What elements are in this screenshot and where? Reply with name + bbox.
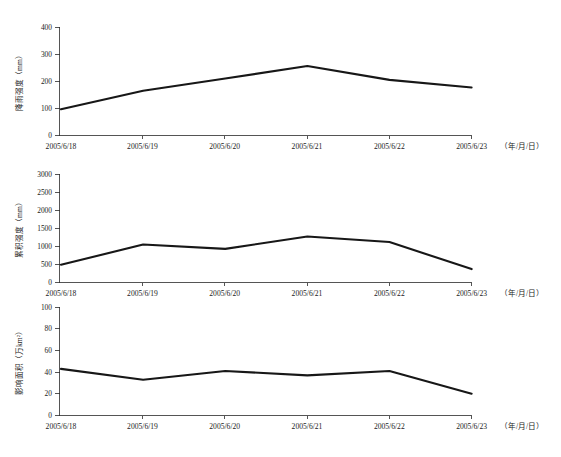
x-tick-label: 2005/6/23 <box>456 422 487 431</box>
x-axis-group-1: 2005/6/18 2005/6/19 2005/6/20 2005/6/21 … <box>46 283 545 298</box>
y-tick-label: 300 <box>41 50 52 59</box>
y-tick-label: 80 <box>45 324 53 333</box>
y-tick-label: 2000 <box>37 206 52 215</box>
y-tick-label: 200 <box>41 77 52 86</box>
y-axis-title: 降雨强度（mm） <box>14 51 24 111</box>
series-line-0 <box>61 66 472 109</box>
y-axis-title: 累积强度（mm） <box>14 198 24 258</box>
x-axis-unit-label: （年/月/日） <box>500 421 544 431</box>
x-tick-label: 2005/6/19 <box>127 422 158 431</box>
x-tick-label: 2005/6/22 <box>374 142 405 151</box>
figure-stack: 400 300 200 100 0 降雨强度（mm） 2005/6/18 200… <box>0 0 561 457</box>
y-axis-group-1: 3000 2500 2000 1500 1000 500 0 累积强度（mm） <box>14 170 60 288</box>
chart-rainfall-intensity: 400 300 200 100 0 降雨强度（mm） 2005/6/18 200… <box>0 6 561 158</box>
y-tick-label: 60 <box>45 346 53 355</box>
x-tick-label: 2005/6/21 <box>292 142 323 151</box>
y-tick-label: 0 <box>48 411 52 420</box>
x-axis-unit-label: （年/月/日） <box>500 288 544 298</box>
y-tick-label: 100 <box>41 303 52 312</box>
x-tick-label: 2005/6/23 <box>456 142 487 151</box>
x-axis-group-0: 2005/6/18 2005/6/19 2005/6/20 2005/6/21 … <box>46 136 545 151</box>
chart-svg-2: 100 80 60 40 20 0 影响面积（万km²） 2005/6/18 2… <box>0 303 561 455</box>
x-axis-group-2: 2005/6/18 2005/6/19 2005/6/20 2005/6/21 … <box>46 416 545 431</box>
y-tick-label: 100 <box>41 104 52 113</box>
x-tick-label: 2005/6/18 <box>46 422 77 431</box>
x-tick-label: 2005/6/18 <box>46 289 77 298</box>
y-tick-label: 1000 <box>37 242 52 251</box>
x-tick-label: 2005/6/22 <box>374 422 405 431</box>
x-tick-label: 2005/6/19 <box>127 289 158 298</box>
chart-affected-area: 100 80 60 40 20 0 影响面积（万km²） 2005/6/18 2… <box>0 303 561 455</box>
y-axis-title: 影响面积（万km²） <box>14 327 24 395</box>
y-tick-label: 500 <box>41 260 52 269</box>
y-axis-group-0: 400 300 200 100 0 降雨强度（mm） <box>14 23 60 141</box>
x-tick-label: 2005/6/20 <box>209 142 240 151</box>
x-tick-label: 2005/6/20 <box>209 422 240 431</box>
y-axis-group-2: 100 80 60 40 20 0 影响面积（万km²） <box>14 303 60 420</box>
series-line-2 <box>61 369 472 394</box>
x-tick-label: 2005/6/23 <box>456 289 487 298</box>
y-tick-label: 0 <box>48 278 52 287</box>
y-tick-label: 40 <box>45 368 53 377</box>
y-tick-label: 3000 <box>37 170 52 179</box>
x-tick-label: 2005/6/21 <box>292 422 323 431</box>
y-tick-label: 0 <box>48 131 52 140</box>
y-tick-label: 20 <box>45 389 53 398</box>
y-tick-label: 2500 <box>37 188 52 197</box>
x-tick-label: 2005/6/18 <box>46 142 77 151</box>
x-tick-label: 2005/6/19 <box>127 142 158 151</box>
x-axis-unit-label: （年/月/日） <box>500 141 544 151</box>
x-tick-label: 2005/6/21 <box>292 289 323 298</box>
chart-svg-0: 400 300 200 100 0 降雨强度（mm） 2005/6/18 200… <box>0 6 561 158</box>
x-tick-label: 2005/6/20 <box>209 289 240 298</box>
y-tick-label: 400 <box>41 23 52 32</box>
x-tick-label: 2005/6/22 <box>374 289 405 298</box>
series-line-1 <box>61 237 472 270</box>
chart-cumulative-intensity: 3000 2500 2000 1500 1000 500 0 累积强度（mm） … <box>0 158 561 310</box>
chart-svg-1: 3000 2500 2000 1500 1000 500 0 累积强度（mm） … <box>0 158 561 310</box>
y-tick-label: 1500 <box>37 224 52 233</box>
